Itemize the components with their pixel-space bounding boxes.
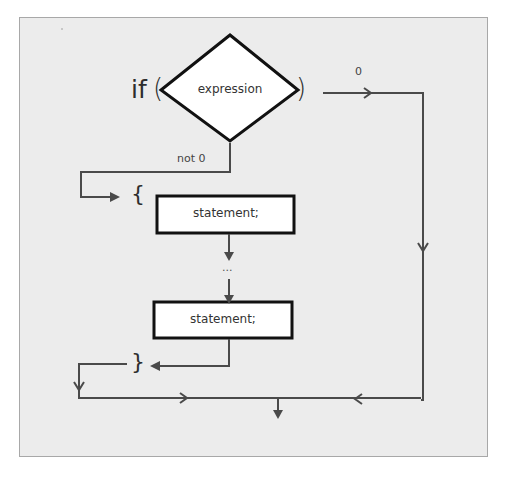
connector-box2-to-brace — [158, 339, 229, 366]
close-paren: ) — [296, 75, 306, 101]
open-paren: ( — [153, 75, 163, 101]
zero-branch-connector — [323, 93, 423, 400]
arrow-down-icon — [273, 410, 283, 419]
open-brace: { — [131, 183, 145, 205]
zero-branch-label: 0 — [355, 66, 362, 77]
statement-label-1: statement; — [157, 207, 295, 219]
nonzero-branch-label: not 0 — [177, 153, 206, 164]
speck — [61, 28, 63, 30]
nonzero-branch-connector — [81, 143, 230, 197]
arrow-right-icon — [110, 192, 120, 202]
if-keyword: if — [131, 77, 147, 102]
flowchart-stage: if ( ) expression 0 not 0 { } statement;… — [0, 0, 510, 477]
close-brace: } — [131, 351, 145, 373]
condition-label: expression — [194, 83, 266, 95]
statement-label-2: statement; — [154, 313, 292, 325]
arrow-down-icon — [224, 252, 234, 261]
arrow-left-icon — [150, 361, 160, 371]
ellipsis: ... — [222, 262, 233, 273]
flowchart-graphics — [0, 0, 510, 477]
